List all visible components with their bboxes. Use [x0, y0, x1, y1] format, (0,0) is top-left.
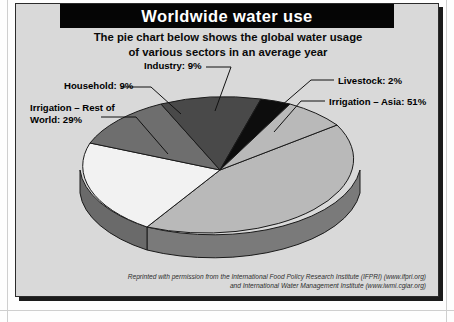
figure-credit-line-2: and International Water Management Insti…	[46, 281, 426, 290]
pie-label-livestock: Livestock: 2%	[338, 75, 402, 87]
pie-chart-svg	[16, 4, 439, 297]
page-rule-left	[7, 0, 8, 322]
figure-credit: Reprinted with permission from the Inter…	[46, 272, 426, 290]
page-rule-right	[446, 0, 447, 322]
pie-label-irrigation-rest-of-world: Irrigation – Rest of World: 29%	[30, 102, 126, 125]
pie-chart: Industry: 9% Household: 9% Irrigation – …	[16, 4, 439, 297]
pie-label-household: Household: 9%	[64, 80, 133, 92]
page-rule-bottom	[0, 310, 454, 311]
figure-credit-line-1: Reprinted with permission from the Inter…	[46, 272, 426, 281]
figure-panel: Worldwide water use The pie chart below …	[15, 3, 439, 297]
page-background: Worldwide water use The pie chart below …	[0, 0, 454, 322]
pie-label-irrigation-asia: Irrigation – Asia: 51%	[329, 96, 426, 108]
pie-label-industry: Industry: 9%	[144, 60, 202, 72]
